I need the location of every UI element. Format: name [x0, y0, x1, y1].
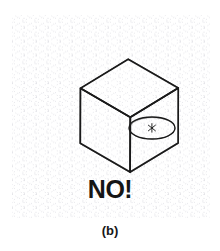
verdict-label-no: NO! [0, 177, 220, 202]
figure-caption: (b) [0, 223, 220, 238]
figure-panel: NO! (b) [0, 0, 220, 251]
isometric-cube-drawing [0, 0, 220, 251]
